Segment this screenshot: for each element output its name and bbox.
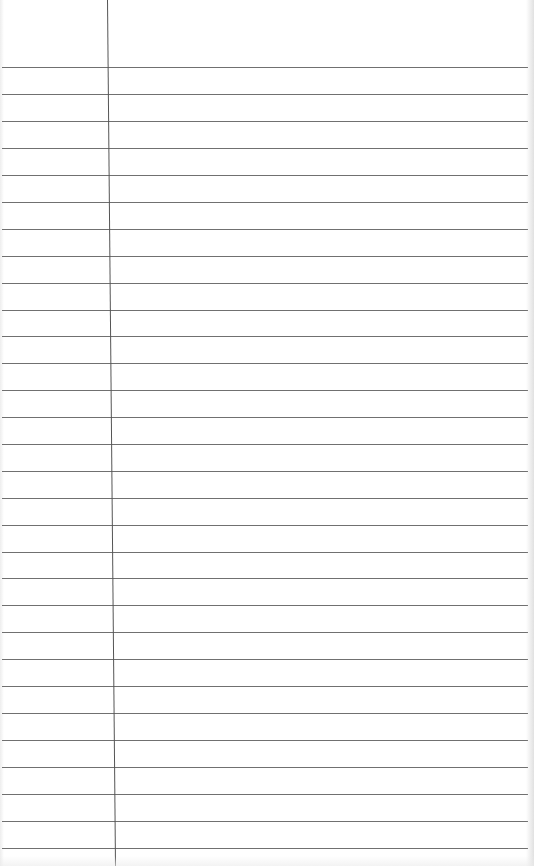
ruled-line bbox=[2, 121, 528, 122]
ruled-line bbox=[2, 363, 528, 364]
ruled-line bbox=[2, 794, 528, 795]
ruled-line bbox=[2, 256, 528, 257]
ruled-line bbox=[2, 471, 528, 472]
left-edge-shadow bbox=[0, 0, 4, 866]
ruled-line bbox=[2, 444, 528, 445]
ruled-line bbox=[2, 94, 528, 95]
bottom-edge-shade bbox=[0, 856, 534, 866]
ruled-line bbox=[2, 578, 528, 579]
ruled-line bbox=[2, 605, 528, 606]
ruled-line bbox=[2, 67, 528, 68]
ruled-line bbox=[2, 525, 528, 526]
ruled-line bbox=[2, 390, 528, 391]
ruled-line bbox=[2, 417, 528, 418]
ruled-line bbox=[2, 686, 528, 687]
ruled-line bbox=[2, 713, 528, 714]
ruled-line bbox=[2, 740, 528, 741]
ruled-line bbox=[2, 175, 528, 176]
right-edge-shadow bbox=[526, 0, 534, 866]
lined-paper bbox=[0, 0, 534, 866]
ruled-line bbox=[2, 336, 528, 337]
ruled-line bbox=[2, 632, 528, 633]
ruled-line bbox=[2, 659, 528, 660]
ruled-line bbox=[2, 767, 528, 768]
margin-line bbox=[107, 0, 116, 866]
ruled-line bbox=[2, 148, 528, 149]
ruled-line bbox=[2, 821, 528, 822]
ruled-line bbox=[2, 498, 528, 499]
ruled-line bbox=[2, 552, 528, 553]
ruled-line bbox=[2, 283, 528, 284]
ruled-line bbox=[2, 310, 528, 311]
ruled-line bbox=[2, 848, 528, 849]
ruled-line bbox=[2, 202, 528, 203]
ruled-line bbox=[2, 229, 528, 230]
